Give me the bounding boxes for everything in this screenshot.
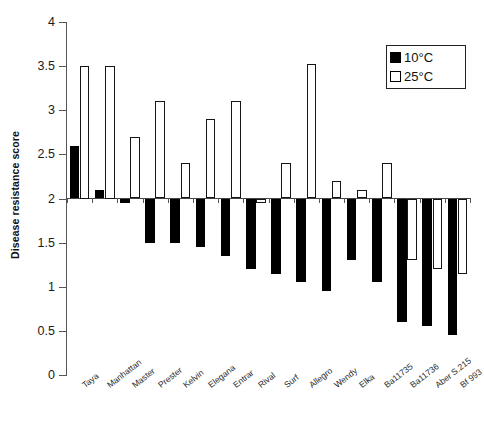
x-axis-tick-mark [369, 198, 370, 203]
y-axis-tick-mark [59, 287, 66, 288]
y-axis-tick-mark [59, 22, 66, 23]
x-axis-tick-mark [218, 198, 219, 203]
legend-item-cold: 10°C [390, 48, 462, 67]
bar-10c [322, 199, 332, 292]
legend-item-warm: 25°C [390, 67, 462, 86]
y-axis-tick-mark [59, 331, 66, 332]
y-axis-tick-mark [59, 375, 66, 376]
bar-25c [307, 64, 317, 198]
x-axis-tick-mark [92, 198, 93, 203]
x-axis-tick-mark [445, 198, 446, 203]
bar-25c [105, 66, 115, 198]
bar-10c [347, 199, 357, 261]
bar-10c [448, 199, 458, 336]
bar-10c [70, 146, 80, 199]
x-axis-tick-mark [470, 198, 471, 203]
legend-label-25c: 25°C [404, 70, 433, 83]
legend-swatch-25c [390, 71, 401, 82]
y-axis-tick-mark [59, 110, 66, 111]
y-axis-tick-mark [59, 199, 66, 200]
bar-25c [80, 66, 90, 198]
y-axis-tick-label: 2 [29, 192, 55, 206]
bar-25c [281, 163, 291, 198]
y-axis-tick-label: 1 [29, 280, 55, 294]
legend-label-10c: 10°C [404, 51, 433, 64]
bar-25c [181, 163, 191, 198]
x-axis-tick-mark [143, 198, 144, 203]
y-axis-title: Disease resistance score [2, 0, 28, 390]
x-axis-tick-mark [117, 198, 118, 203]
y-axis-tick-label: 3.5 [29, 59, 55, 73]
y-axis-title-text: Disease resistance score [9, 131, 21, 259]
bar-10c [170, 199, 180, 243]
y-axis-tick-label: 3 [29, 103, 55, 117]
y-axis-tick-mark [59, 243, 66, 244]
y-axis: 00.511.522.533.54 [29, 0, 67, 441]
bar-10c [397, 199, 407, 323]
y-axis-tick-label: 0 [29, 368, 55, 382]
bar-10c [422, 199, 432, 327]
bar-10c [372, 199, 382, 283]
legend-swatch-10c [390, 52, 401, 63]
x-axis-tick-mark [294, 198, 295, 203]
x-axis-tick-mark [243, 198, 244, 203]
bar-10c [246, 199, 256, 270]
x-axis-tick-mark [269, 198, 270, 203]
x-axis-tick-mark [319, 198, 320, 203]
y-axis-tick-label: 2.5 [29, 147, 55, 161]
bar-25c [206, 119, 216, 198]
x-axis-tick-mark [420, 198, 421, 203]
bar-10c [271, 199, 281, 274]
y-axis-tick-mark [59, 66, 66, 67]
x-axis-tick-mark [67, 198, 68, 203]
y-axis-tick-label: 4 [29, 15, 55, 29]
bar-25c [382, 163, 392, 198]
bar-10c [120, 199, 130, 203]
chart-legend: 10°C 25°C [386, 45, 466, 89]
y-axis-tick-mark [59, 154, 66, 155]
y-axis-tick-label: 1.5 [29, 236, 55, 250]
bar-25c [155, 101, 165, 198]
x-axis-tick-mark [168, 198, 169, 203]
bar-10c [221, 199, 231, 256]
bar-25c [458, 199, 468, 274]
x-axis-tick-mark [344, 198, 345, 203]
x-axis-tick-mark [394, 198, 395, 203]
bar-25c [433, 199, 443, 270]
bar-10c [145, 199, 155, 243]
y-axis-tick-label: 0.5 [29, 324, 55, 338]
bar-10c [296, 199, 306, 283]
bar-25c [332, 181, 342, 199]
bar-25c [130, 137, 140, 199]
bar-25c [407, 199, 417, 261]
bar-25c [231, 101, 241, 198]
bar-25c [357, 190, 367, 199]
bar-25c [256, 199, 266, 203]
bar-10c [196, 199, 206, 248]
x-axis-tick-mark [193, 198, 194, 203]
bar-10c [95, 190, 105, 199]
